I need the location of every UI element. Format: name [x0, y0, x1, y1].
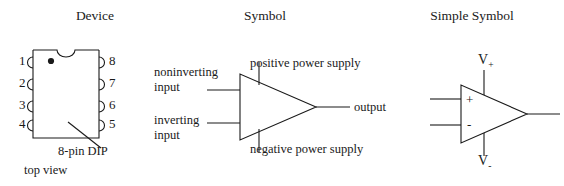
pin-left-3	[28, 101, 34, 112]
inverting-input-label-line2: input	[154, 128, 180, 143]
pin-left-1	[28, 57, 34, 68]
view-caption: top view	[24, 163, 67, 178]
v-positive-subscript: +	[488, 60, 493, 70]
v-positive-base: V	[478, 52, 488, 67]
plus-input-sign: +	[466, 93, 473, 108]
pin-right-6	[99, 101, 105, 112]
opamp-triangle-body	[240, 74, 316, 140]
pin-left-4	[28, 120, 34, 131]
pin-number-5: 5	[109, 117, 116, 131]
v-negative-subscript: -	[488, 161, 491, 171]
pin-left-2	[28, 79, 33, 90]
package-body-outline	[33, 50, 99, 138]
noninverting-input-label-line1: noninverting	[154, 65, 218, 80]
pin-number-3: 3	[19, 98, 26, 112]
pin-number-6: 6	[109, 98, 116, 112]
package-top-edge-with-notch	[33, 50, 99, 57]
symbol-panel: Symbol noninverting input inverting inpu…	[140, 0, 390, 186]
simple-symbol-panel: Simple Symbol + - V+ V-	[380, 0, 564, 186]
v-negative-label: V-	[478, 153, 491, 174]
negative-power-supply-label: negative power supply	[250, 142, 363, 157]
pin-number-4: 4	[19, 117, 26, 131]
pin-one-dot-icon	[48, 58, 54, 64]
pin-number-2: 2	[19, 76, 26, 90]
v-negative-base: V	[478, 153, 488, 168]
noninverting-input-label-line2: input	[154, 80, 180, 95]
pin-right-8	[99, 57, 105, 68]
inverting-input-label-line1: inverting	[154, 113, 199, 128]
pin-right-5	[99, 120, 105, 131]
package-caption: 8-pin DIP	[58, 144, 108, 159]
positive-power-supply-label: positive power supply	[250, 56, 360, 71]
pin-number-7: 7	[109, 76, 116, 90]
minus-input-sign: -	[467, 118, 471, 133]
pin-right-7	[99, 79, 104, 90]
v-positive-label: V+	[478, 52, 493, 73]
opamp-figure: Device 1 2 3	[0, 0, 564, 186]
pin-number-8: 8	[109, 54, 116, 68]
pin-number-1: 1	[19, 54, 26, 68]
